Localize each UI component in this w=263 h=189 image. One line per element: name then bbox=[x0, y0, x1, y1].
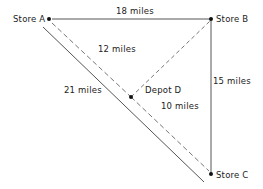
depot-d-dot bbox=[129, 95, 133, 99]
edge-d-c-label: 10 miles bbox=[161, 101, 199, 111]
store-b-label: Store B bbox=[216, 14, 248, 24]
store-c-label: Store C bbox=[216, 170, 249, 180]
depot-d-label: Depot D bbox=[145, 85, 182, 95]
edge-a-b-label: 18 miles bbox=[116, 6, 154, 16]
store-a-dot bbox=[47, 17, 51, 21]
edge-a-c-label: 21 miles bbox=[64, 85, 102, 95]
store-c-dot bbox=[209, 172, 213, 176]
store-b-dot bbox=[209, 17, 213, 21]
edge-b-c-label: 15 miles bbox=[213, 76, 251, 86]
edge-a-d-label: 12 miles bbox=[98, 44, 136, 54]
distance-diagram: Store A Store B Store C Depot D 18 miles… bbox=[0, 0, 263, 189]
store-a-label: Store A bbox=[13, 14, 45, 24]
